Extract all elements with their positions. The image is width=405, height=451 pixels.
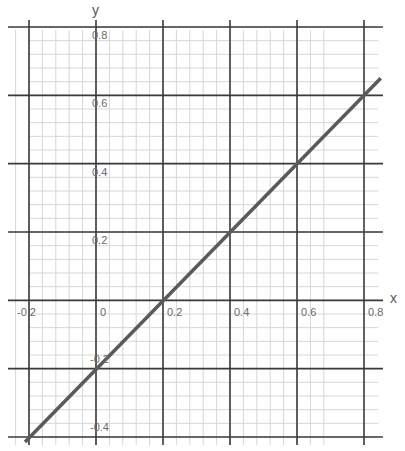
x-tick-label: 0.8 — [368, 306, 383, 318]
y-tick-label: -0.2 — [90, 353, 109, 365]
y-tick-label: 0.8 — [92, 29, 107, 41]
y-tick-label: 0.2 — [92, 234, 107, 246]
x-tick-label: -0.2 — [17, 306, 36, 318]
x-tick-label: 0.2 — [167, 306, 182, 318]
y-tick-label: 0.6 — [92, 97, 107, 109]
y-tick-label: 0.4 — [92, 166, 107, 178]
chart-plot-area — [0, 0, 405, 451]
x-tick-label: 0.6 — [301, 306, 316, 318]
x-axis-label: x — [390, 290, 397, 306]
x-tick-label: 0 — [100, 306, 106, 318]
x-tick-label: 0.4 — [234, 306, 249, 318]
y-axis-label: y — [92, 2, 99, 18]
y-tick-label: -0.4 — [90, 421, 109, 433]
